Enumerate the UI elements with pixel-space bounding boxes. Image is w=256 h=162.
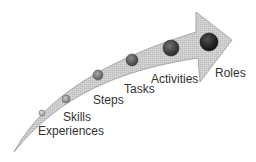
stage-label-steps: Steps [93,94,124,106]
stage-label-activities: Activities [151,73,198,85]
stage-dot-1-icon [39,110,45,116]
progression-diagram: Experiences Skills Steps Tasks Activitie… [0,0,256,162]
stage-dot-3-icon [93,70,103,80]
stage-dot-6-icon [200,33,218,51]
stage-label-experiences: Experiences [38,125,104,137]
stage-dot-2-icon [62,95,70,103]
stage-dot-5-icon [163,40,179,56]
stage-label-skills: Skills [63,111,91,123]
stage-dot-4-icon [126,54,138,66]
stage-label-roles: Roles [215,67,246,79]
